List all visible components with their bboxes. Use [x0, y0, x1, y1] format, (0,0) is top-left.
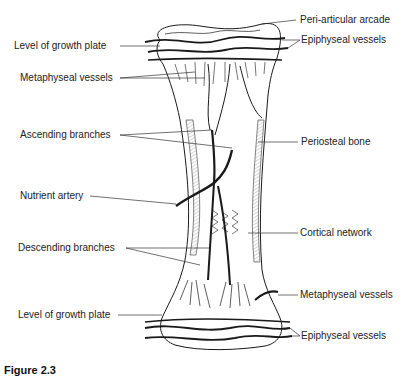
label-level-growth-plate-bottom: Level of growth plate — [18, 309, 110, 321]
label-nutrient-artery: Nutrient artery — [20, 190, 83, 202]
descending-branch-vessel — [208, 183, 230, 285]
nutrient-artery-vessel — [176, 150, 232, 206]
label-metaphyseal-vessels-top: Metaphyseal vessels — [20, 72, 113, 84]
ascending-branch-vessel — [212, 130, 214, 183]
label-epiphyseal-vessels-top: Epiphyseal vessels — [301, 34, 386, 46]
label-descending-branches: Descending branches — [18, 242, 115, 254]
label-peri-articular-arcade: Peri-articular arcade — [300, 14, 390, 26]
label-periosteal-bone: Periosteal bone — [301, 136, 371, 148]
figure-caption: Figure 2.3 — [4, 364, 56, 376]
label-metaphyseal-vessels-bottom: Metaphyseal vessels — [300, 289, 393, 301]
label-epiphyseal-vessels-bottom: Epiphyseal vessels — [301, 330, 386, 342]
label-ascending-branches: Ascending branches — [20, 129, 111, 141]
label-cortical-network: Cortical network — [300, 227, 372, 239]
label-level-growth-plate-top: Level of growth plate — [14, 40, 106, 52]
